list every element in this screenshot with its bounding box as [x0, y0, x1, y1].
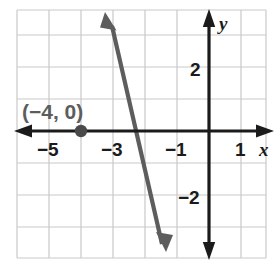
x-tick-label-neg3: −3: [101, 140, 123, 159]
y-axis-arrowhead-down: [203, 242, 215, 260]
x-tick-label-neg1: −1: [165, 140, 187, 159]
y-axis: [203, 9, 215, 260]
x-tick-label-neg5: −5: [37, 140, 59, 159]
graph-canvas: [0, 0, 280, 266]
point-coordinate-label: (−4, 0): [22, 101, 83, 122]
coordinate-plane-figure: (−4, 0) −5 −3 −1 1 2 −2 x y: [0, 0, 280, 266]
y-tick-label-2: 2: [190, 60, 201, 79]
x-axis: [14, 125, 274, 138]
line-arrowhead-down: [156, 232, 173, 252]
x-axis-name: x: [259, 140, 269, 159]
y-axis-arrowhead-up: [203, 9, 215, 27]
grid-lines: [17, 10, 266, 258]
line-arrowhead-up: [100, 12, 117, 31]
y-tick-label-neg2: −2: [178, 188, 200, 207]
x-tick-label-1: 1: [235, 140, 246, 159]
y-axis-name: y: [219, 14, 227, 33]
point-marker: [75, 125, 87, 137]
x-axis-arrowhead-right: [256, 125, 274, 138]
